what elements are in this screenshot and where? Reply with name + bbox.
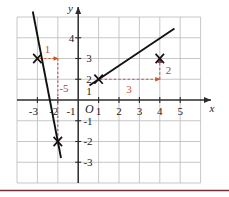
coordinate-plane-svg: -3 -2 -1 1 2 3 4 5 4 3 2 1 -1 -2 -3 O x … [0, 0, 229, 197]
y-tick-label-3: 3 [86, 52, 92, 64]
x-tick-label-3: 3 [137, 105, 143, 117]
left-run-annotation-label: 1 [45, 43, 51, 55]
y-tick-label-2: 2 [86, 73, 92, 85]
x-tick-label-1: 1 [96, 105, 102, 117]
x-tick-label--3: -3 [29, 105, 39, 117]
x-tick-label-4: 4 [157, 105, 163, 117]
x-tick-label-2: 2 [116, 105, 122, 117]
x-tick-label--1: -1 [66, 105, 75, 117]
y-tick-label--1: -1 [83, 115, 92, 127]
right-run-annotation-label: 3 [126, 83, 132, 95]
y-tick-label-1: 1 [86, 85, 92, 97]
left-rise-annotation-label: -5 [59, 82, 69, 94]
origin-label: O [85, 102, 94, 116]
y-tick-label--3: -3 [83, 156, 93, 168]
y-tick-label--2: -2 [83, 135, 92, 147]
left-line-group: 1 -5 [33, 12, 69, 159]
x-tick-label-5: 5 [177, 105, 183, 117]
right-line-group: 3 2 [89, 29, 174, 95]
y-axis-label: y [67, 2, 73, 14]
x-axis-label: x [209, 102, 215, 114]
y-tick-label-4: 4 [69, 32, 75, 44]
axis-lines [17, 7, 211, 183]
right-rise-annotation-label: 2 [166, 64, 172, 76]
coordinate-plane-figure: -3 -2 -1 1 2 3 4 5 4 3 2 1 -1 -2 -3 O x … [0, 0, 229, 197]
